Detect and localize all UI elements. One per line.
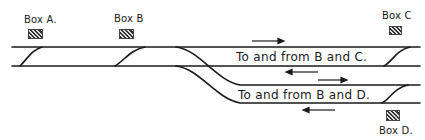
crossover-d [382, 85, 408, 103]
arrow-right-icon [278, 39, 284, 44]
signal-box-b-icon [119, 29, 134, 39]
crossover-b [115, 47, 145, 66]
box-d-label: Box D. [379, 126, 413, 136]
signal-box-c-icon [389, 26, 402, 35]
lower-track-label: To and from B and D. [238, 89, 370, 101]
box-c-label: Box C [382, 11, 412, 21]
crossover-c [384, 47, 410, 66]
crossover-a [20, 47, 42, 66]
box-a-label: Box A. [24, 15, 57, 25]
signal-box-d-icon [386, 110, 400, 121]
arrow-right-icon [341, 78, 347, 83]
upper-track-label: To and from B and C. [236, 51, 367, 63]
arrow-left-icon [303, 108, 309, 113]
box-b-label: Box B [114, 14, 144, 24]
arrow-left-icon [286, 70, 292, 75]
track-diagram [0, 0, 425, 140]
signal-box-a-icon [28, 29, 43, 39]
